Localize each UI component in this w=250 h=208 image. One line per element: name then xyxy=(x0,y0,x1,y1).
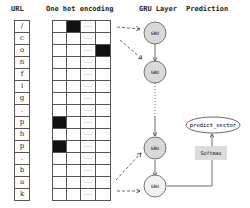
gru-node-1: GRU xyxy=(144,22,166,44)
svg-text:GRU: GRU xyxy=(151,31,159,36)
gru-network-diagram: GRU GRU GRU GRU Softmax predict_vector xyxy=(0,0,250,208)
gru-node-3: GRU xyxy=(144,137,166,159)
predict-vector-node: predict_vector xyxy=(186,117,240,133)
softmax-box: Softmax xyxy=(195,146,227,160)
input-arrow-3 xyxy=(116,153,141,180)
input-arrow-2 xyxy=(120,40,142,59)
svg-text:GRU: GRU xyxy=(151,70,159,75)
svg-text:GRU: GRU xyxy=(151,146,159,151)
gru-node-2: GRU xyxy=(144,61,166,83)
svg-text:predict_vector: predict_vector xyxy=(190,122,237,129)
svg-text:GRU: GRU xyxy=(151,184,159,189)
svg-text:Softmax: Softmax xyxy=(200,150,221,156)
gru-node-4: GRU xyxy=(144,175,166,197)
input-arrow-1 xyxy=(117,27,140,29)
